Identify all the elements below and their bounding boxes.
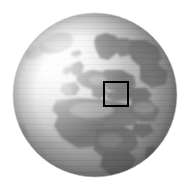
- limb-shadow: [13, 13, 177, 177]
- globe-locator-figure: [0, 0, 192, 188]
- globe-graphic: [0, 0, 192, 188]
